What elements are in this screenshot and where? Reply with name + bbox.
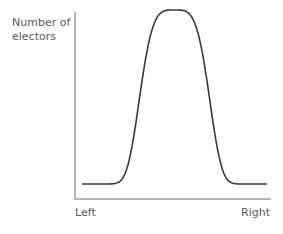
chart-plot xyxy=(0,0,283,234)
x-tick-right: Right xyxy=(241,206,270,219)
x-tick-left: Left xyxy=(75,206,96,219)
distribution-curve xyxy=(82,10,267,184)
